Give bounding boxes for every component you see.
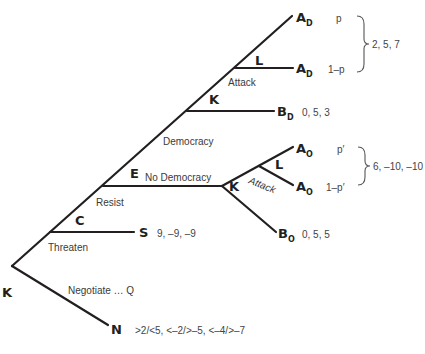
label-threaten: Threaten [48,242,88,253]
terminal-letter: A [296,61,306,76]
payoff-ao-group: 6, –10, –10 [373,161,423,172]
edge-root-trunk [12,16,292,266]
terminal-bd: B D [277,104,294,122]
node-c: C [75,213,85,228]
label-negotiate: Negotiate … Q [68,285,134,296]
brace-ad [357,16,369,72]
prob-ad-top: p [336,13,342,24]
terminal-s: S [139,225,148,240]
node-l-no-democracy: L [275,157,283,172]
terminal-letter: B [277,104,287,119]
terminal-letter: A [296,141,306,156]
terminal-ao-bottom: A O [296,179,313,197]
terminal-ad-bottom: A D [296,61,313,79]
payoff-s: 9, –9, –9 [157,228,196,239]
terminal-ao-top: A O [296,141,313,159]
terminal-subscript: O [306,150,313,159]
prob-ao-top: p′ [337,144,345,155]
terminal-letter: A [296,10,306,25]
terminal-subscript: D [306,70,313,79]
node-l-democracy: L [255,53,263,68]
node-root-k: K [2,285,13,300]
label-attack-democracy: Attack [228,77,257,88]
prob-ao-bottom: 1–p′ [326,182,345,193]
terminal-subscript: O [288,235,295,244]
terminal-subscript: O [306,188,313,197]
terminal-bo: B O [278,226,295,244]
brace-ao [358,147,370,185]
terminal-subscript: D [287,113,294,122]
label-democracy: Democracy [163,136,214,147]
game-tree-diagram: K C E K L K L Threaten Negotiate … Q Res… [0,0,425,354]
node-k-democracy: K [209,92,220,107]
node-e: E [130,166,139,181]
payoff-n: >2/<5, <–2/>–5, <–4/>–7 [135,325,246,336]
label-attack-no-democracy: Attack [246,174,278,195]
prob-ad-bottom: 1–p [328,64,345,75]
payoff-bd: 0, 5, 3 [302,107,330,118]
payoff-ad-group: 2, 5, 7 [372,39,400,50]
terminal-n: N [111,322,122,337]
label-no-democracy: No Democracy [145,172,211,183]
terminal-subscript: D [306,19,313,28]
terminal-letter: A [296,179,306,194]
node-k-no-democracy: K [229,179,240,194]
payoff-bo: 0, 5, 5 [302,229,330,240]
terminal-letter: B [278,226,288,241]
label-resist: Resist [96,197,124,208]
terminal-ad-top: A D [296,10,313,28]
